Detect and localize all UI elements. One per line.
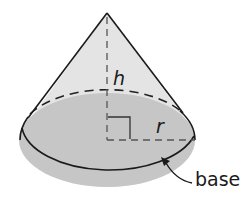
height-label: h: [113, 67, 125, 89]
base-label: base: [195, 168, 240, 190]
cone-diagram: h r base: [0, 0, 252, 205]
radius-label: r: [156, 115, 165, 137]
